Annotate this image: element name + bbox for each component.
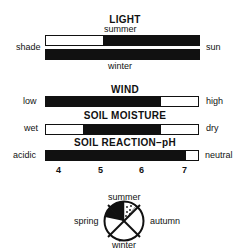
light-right-label: sun [206, 42, 221, 52]
light-winter-bar [45, 49, 200, 60]
wind-title: WIND [90, 84, 160, 95]
soil-moisture-title: SOIL MOISTURE [70, 110, 180, 121]
season-dial-icon [102, 200, 146, 242]
season-autumn-label: autumn [150, 216, 180, 226]
wind-right-label: high [206, 96, 223, 106]
light-summer-fill [103, 36, 199, 45]
ph-tick-5: 5 [98, 165, 103, 175]
light-winter-fill [46, 50, 199, 59]
wind-left-label: low [23, 96, 37, 106]
soil-reaction-bar [45, 150, 199, 161]
light-summer-label: summer [104, 24, 137, 34]
soil-reaction-fill [46, 151, 186, 160]
soil-moisture-bar [45, 124, 199, 135]
wind-fill [46, 97, 161, 106]
ph-tick-7: 7 [182, 165, 187, 175]
light-summer-bar [45, 35, 200, 46]
ph-tick-6: 6 [139, 165, 144, 175]
ph-tick-4: 4 [56, 165, 61, 175]
soil-moisture-right-label: dry [206, 123, 219, 133]
soil-moisture-fill [83, 125, 161, 134]
cropped-caption-text [0, 0, 3, 4]
season-spring-label: spring [74, 216, 99, 226]
wind-bar [45, 96, 199, 107]
soil-moisture-left-label: wet [24, 123, 38, 133]
soil-reaction-left-label: acidic [13, 150, 36, 160]
light-left-label: shade [16, 42, 41, 52]
soil-reaction-title: SOIL REACTION–pH [65, 137, 185, 148]
soil-reaction-right-label: neutral [205, 150, 233, 160]
light-winter-label: winter [108, 61, 132, 71]
